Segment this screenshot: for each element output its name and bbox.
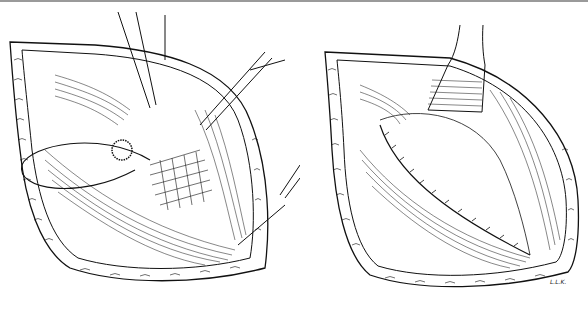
- surgical-illustration-left: [0, 0, 300, 311]
- artist-signature: L.L.K.: [550, 278, 566, 285]
- left-panel-illustration: [0, 0, 300, 311]
- surgical-illustration-right: [300, 0, 588, 311]
- right-panel-illustration: [300, 0, 588, 311]
